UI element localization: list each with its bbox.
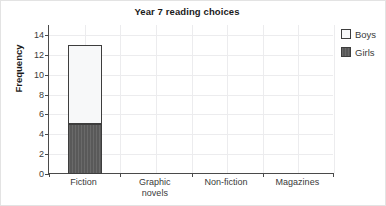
gridline-vertical — [334, 25, 335, 173]
y-axis-tick-mark — [45, 75, 49, 76]
y-axis-tick-label: 14 — [20, 30, 44, 40]
y-axis-tick-label: 4 — [20, 129, 44, 139]
legend-label: Girls — [355, 47, 375, 58]
y-axis-tick-mark — [45, 134, 49, 135]
bar-segment-girls[interactable] — [68, 124, 102, 174]
gridline-vertical — [227, 25, 228, 173]
x-axis-category-label: Fiction — [48, 177, 119, 188]
legend-item-boys[interactable]: Boys — [341, 26, 376, 42]
x-axis-category-label: Graphic novels — [119, 177, 190, 199]
y-axis-tick-label: 12 — [20, 50, 44, 60]
gridline-vertical — [263, 25, 264, 173]
y-axis-tick-mark — [45, 154, 49, 155]
x-axis-tick-mark — [333, 173, 334, 177]
chart-title: Year 7 reading choices — [41, 6, 333, 17]
legend-swatch-icon — [341, 47, 351, 57]
y-axis-tick-label: 2 — [20, 149, 44, 159]
y-axis-tick-mark — [45, 55, 49, 56]
legend-item-girls[interactable]: Girls — [341, 44, 376, 60]
x-axis-category-label: Non-fiction — [191, 177, 262, 188]
gridline-vertical — [120, 25, 121, 173]
legend-label: Boys — [355, 29, 376, 40]
y-axis-tick-label: 10 — [20, 70, 44, 80]
plot-area — [48, 25, 333, 174]
y-axis-tick-label: 6 — [20, 109, 44, 119]
bar-segment-boys[interactable] — [68, 45, 102, 124]
gridline-vertical — [298, 25, 299, 173]
y-axis-tick-mark — [45, 114, 49, 115]
y-axis-tick-mark — [45, 174, 49, 175]
y-axis-tick-label: 0 — [20, 169, 44, 179]
y-axis-tick-mark — [45, 35, 49, 36]
x-axis-category-label: Magazines — [262, 177, 333, 188]
gridline-horizontal — [49, 35, 333, 36]
gridline-vertical — [192, 25, 193, 173]
gridline-vertical — [156, 25, 157, 173]
legend-swatch-icon — [341, 29, 351, 39]
y-axis-tick-mark — [45, 95, 49, 96]
chart-figure: Year 7 reading choices Frequency 0246810… — [0, 0, 386, 206]
chart-legend: BoysGirls — [341, 26, 376, 62]
y-axis-tick-label: 8 — [20, 90, 44, 100]
